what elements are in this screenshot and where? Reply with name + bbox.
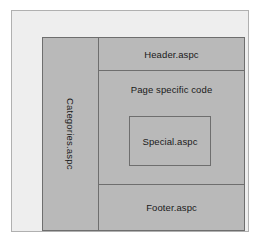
- region-special-label: Special.aspc: [142, 136, 197, 147]
- region-page-specific-code: Page specific code Special.aspc: [99, 71, 244, 184]
- region-categories: Categories.aspc: [43, 38, 99, 230]
- region-page-specific-code-label: Page specific code: [131, 84, 213, 95]
- layout-diagram: Categories.aspc Header.aspc Page specifi…: [0, 0, 263, 247]
- region-categories-label: Categories.aspc: [65, 98, 76, 170]
- outer-frame: Categories.aspc Header.aspc Page specifi…: [11, 10, 249, 232]
- region-footer: Footer.aspc: [99, 184, 244, 230]
- region-header: Header.aspc: [99, 38, 244, 71]
- region-footer-label: Footer.aspc: [146, 202, 197, 213]
- region-header-label: Header.aspc: [144, 49, 198, 60]
- region-special: Special.aspc: [129, 116, 211, 166]
- region-page-specific-code-label-wrap: Page specific code: [99, 79, 244, 97]
- main-column: Header.aspc Page specific code Special.a…: [99, 38, 244, 230]
- container-box: Categories.aspc Header.aspc Page specifi…: [42, 37, 245, 231]
